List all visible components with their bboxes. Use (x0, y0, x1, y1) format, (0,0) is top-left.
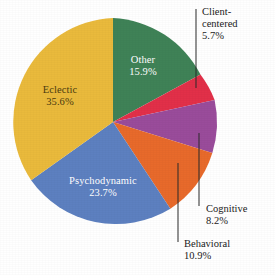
pie-slices (13, 18, 217, 224)
pie-label-client-centered-name-line2: centered (202, 18, 238, 30)
pie-label-client-centered: Client- centered 5.7% (202, 6, 238, 42)
pie-label-behavioral-percent: 10.9% (184, 250, 230, 262)
pie-label-behavioral-name: Behavioral (184, 238, 230, 250)
pie-label-behavioral: Behavioral 10.9% (184, 238, 230, 262)
pie-label-cognitive-name: Cognitive (206, 203, 247, 215)
pie-label-client-centered-percent: 5.7% (202, 30, 238, 42)
pie-label-cognitive-percent: 8.2% (206, 215, 247, 227)
pie-chart-figure: Other 15.9% Eclectic 35.6% Psychodynamic… (0, 0, 275, 275)
pie-label-cognitive: Cognitive 8.2% (206, 203, 247, 227)
pie-label-client-centered-name-line1: Client- (202, 6, 238, 18)
